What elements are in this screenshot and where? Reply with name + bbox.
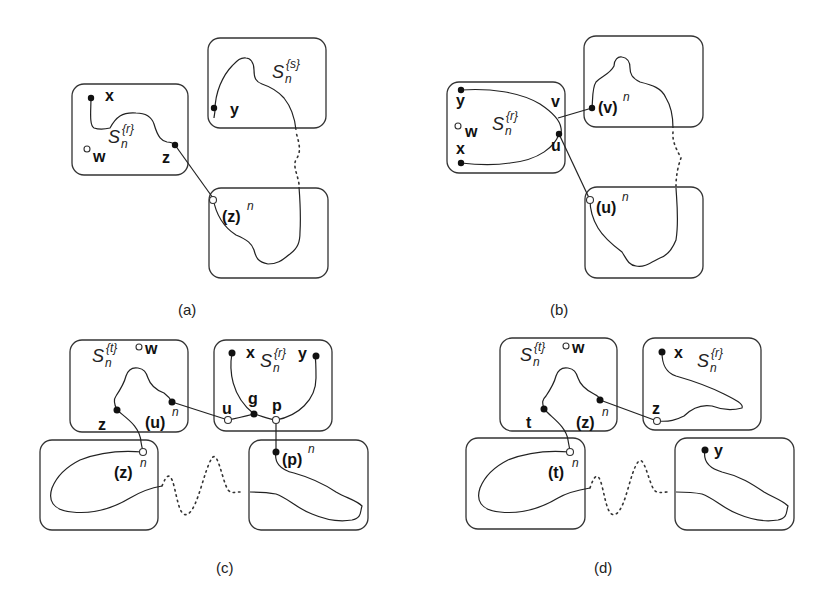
dotted-a-gap xyxy=(295,132,300,184)
point-b-un xyxy=(587,197,594,204)
label-c-g: g xyxy=(248,390,258,407)
point-d-z xyxy=(654,418,661,425)
label-a-Ss: S xyxy=(272,62,284,82)
path-d-bottom-right xyxy=(676,450,788,521)
path-c-p-y xyxy=(276,356,316,420)
label-d-t: t xyxy=(526,414,532,431)
dotted-d-gap xyxy=(590,460,668,514)
edge-a-z-zn xyxy=(175,145,213,198)
label-d-z: z xyxy=(652,400,660,417)
label-c-zn-exp: n xyxy=(140,456,147,470)
point-a-z xyxy=(172,142,178,148)
point-d-y xyxy=(702,447,709,454)
label-d-zn: (z) xyxy=(576,414,595,431)
label-c-x: x xyxy=(246,344,255,361)
label-b-Sr-sub: n xyxy=(505,124,512,138)
label-b-Sr-sup: {r} xyxy=(506,109,518,123)
caption-d: (d) xyxy=(594,559,612,576)
label-a-y: y xyxy=(230,101,239,118)
label-c-p: p xyxy=(272,397,282,414)
point-a-zn xyxy=(210,197,217,204)
label-b-vn-exp: n xyxy=(623,90,630,104)
caption-a: (a) xyxy=(178,301,196,318)
point-d-t xyxy=(541,406,548,413)
label-d-y: y xyxy=(714,442,723,459)
label-b-v: v xyxy=(551,93,560,110)
label-c-un-exp: n xyxy=(172,405,179,419)
point-d-tn xyxy=(567,449,574,456)
point-c-zn xyxy=(140,449,147,456)
label-c-Sr: S xyxy=(260,351,272,371)
label-c-St: S xyxy=(92,346,104,366)
label-a-Sr-sub: n xyxy=(121,137,128,151)
dotted-b-gap xyxy=(673,132,681,186)
path-a-zn-bottom xyxy=(213,187,300,264)
point-c-y xyxy=(313,353,320,360)
point-b-w xyxy=(455,123,461,129)
point-c-g xyxy=(251,411,258,418)
box-d-bottom-right xyxy=(675,438,794,530)
label-c-y: y xyxy=(298,345,307,362)
edge-c-z-zn xyxy=(117,410,143,452)
label-c-u: u xyxy=(222,400,232,417)
label-b-x: x xyxy=(456,140,465,157)
label-d-Sr-sup: {r} xyxy=(711,346,723,360)
label-c-St-sub: n xyxy=(105,356,112,370)
caption-c: (c) xyxy=(216,559,234,576)
label-c-zn: (z) xyxy=(114,464,133,481)
panel-b: y w x v u S n {r} (v) n (u) n (b) xyxy=(447,36,703,318)
point-b-x xyxy=(458,160,464,166)
label-b-vn: (v) xyxy=(598,99,618,116)
label-b-un-exp: n xyxy=(622,190,629,204)
edge-c-un-u xyxy=(172,402,228,420)
label-b-un: (u) xyxy=(596,199,616,216)
label-c-w: w xyxy=(144,340,158,357)
point-d-w xyxy=(563,343,569,349)
box-d-top-left-St xyxy=(500,338,617,431)
label-d-St-sub: n xyxy=(533,355,540,369)
label-d-x: x xyxy=(674,344,683,361)
diagram-canvas: x w z y S n {r} S n {s} (z) n (a) y w xyxy=(0,0,825,603)
label-d-Sr: S xyxy=(697,351,709,371)
label-d-zn-exp: n xyxy=(602,405,609,419)
point-c-u xyxy=(225,417,232,424)
label-d-Sr-sub: n xyxy=(710,361,717,375)
label-a-Ss-sup: {s} xyxy=(286,57,300,71)
path-d-St xyxy=(543,368,600,409)
caption-b: (b) xyxy=(550,301,568,318)
point-a-y xyxy=(211,105,217,111)
path-c-St xyxy=(114,368,172,410)
point-a-x xyxy=(88,95,94,101)
label-d-w: w xyxy=(571,339,585,356)
label-d-tn: (t) xyxy=(548,464,564,481)
label-a-zn-exp: n xyxy=(247,199,254,213)
label-d-St: S xyxy=(520,345,532,365)
label-a-Ss-sub: n xyxy=(285,72,292,86)
label-b-w: w xyxy=(464,123,478,140)
point-a-w xyxy=(84,146,90,152)
point-d-x xyxy=(659,349,666,356)
label-b-u: u xyxy=(551,137,561,154)
label-c-pn-exp: n xyxy=(308,442,315,456)
label-c-un: (u) xyxy=(145,414,165,431)
point-d-zn xyxy=(597,397,604,404)
label-c-pn: (p) xyxy=(282,451,302,468)
label-c-z: z xyxy=(98,416,106,433)
label-c-Sr-sub: n xyxy=(273,361,280,375)
panel-d: S n {t} w t (z) n x S n {r} z (t) n y (d… xyxy=(466,338,794,576)
label-d-St-sup: {t} xyxy=(534,340,545,354)
panel-a: x w z y S n {r} S n {s} (z) n (a) xyxy=(72,38,328,318)
point-c-pn xyxy=(273,449,280,456)
label-c-St-sup: {t} xyxy=(106,341,117,355)
point-b-vn xyxy=(589,105,595,111)
label-b-Sr: S xyxy=(492,114,504,134)
point-c-x xyxy=(229,350,236,357)
label-a-Sr: S xyxy=(108,127,120,147)
path-b-vn-top xyxy=(592,57,673,128)
point-c-z xyxy=(114,407,121,414)
panel-c: S n {t} w z (u) n x S n {r} y g u p (z) … xyxy=(40,340,368,576)
box-c-top-left-St xyxy=(70,340,188,432)
path-c-bottom-right xyxy=(250,452,362,521)
edge-b-v-vn xyxy=(558,108,592,118)
point-c-p xyxy=(273,417,280,424)
